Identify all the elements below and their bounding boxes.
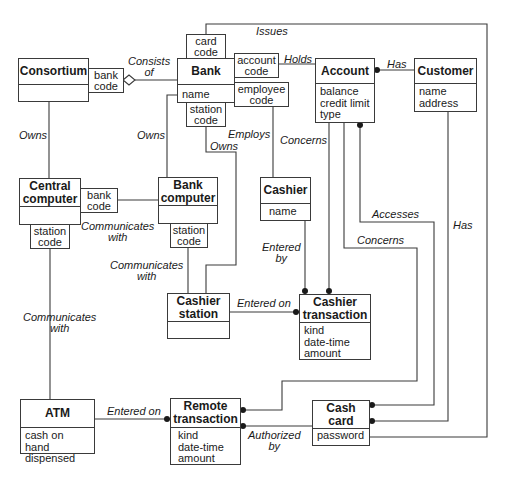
- class-cashier-station: Cashier station: [167, 293, 230, 339]
- class-central-computer: Central computer: [19, 178, 81, 225]
- class-customer: Customer name address: [414, 58, 477, 112]
- label-holds: Holds: [284, 54, 312, 65]
- has-card-line: [369, 111, 448, 421]
- class-bank: Bank name: [177, 58, 235, 103]
- owns-bank-computer-line: [167, 95, 177, 177]
- label-entered-on-atm: Entered on: [107, 406, 161, 417]
- label-issues: Issues: [256, 26, 288, 37]
- class-cashier-transaction: Cashier transaction kind date-time amoun…: [299, 294, 371, 360]
- qualifier-bank-station-code: station code: [186, 102, 226, 127]
- class-attributes: [168, 322, 229, 326]
- class-name: ATM: [21, 400, 94, 428]
- label-entered-on-station: Entered on: [237, 298, 291, 309]
- class-attributes: balance credit limit type: [316, 84, 374, 123]
- class-cashier: Cashier name: [260, 177, 311, 221]
- class-attributes: password: [313, 429, 369, 444]
- label-has-account: Has: [387, 59, 407, 70]
- qualifier-central-bank-code: bank code: [80, 188, 118, 213]
- label-accesses: Accesses: [372, 209, 419, 220]
- qualifier-bankcomputer-station-code: station code: [170, 223, 208, 248]
- class-attributes: name: [261, 204, 310, 220]
- label-communicates-central-bank: Communicates with: [81, 221, 154, 242]
- label-owns-bank-computer: Owns: [137, 130, 165, 141]
- class-attributes: kind date-time amount: [300, 323, 370, 362]
- class-name: Bank: [178, 59, 234, 85]
- label-entered-by: Entered by: [262, 242, 301, 263]
- class-account: Account balance credit limit type: [315, 58, 375, 123]
- qualifier-bank-employee-code: employee code: [234, 82, 289, 107]
- class-attributes: name: [178, 85, 234, 103]
- label-consists-of: Consists of: [128, 56, 170, 77]
- class-name: Cash card: [313, 401, 369, 429]
- class-attributes: [20, 207, 80, 211]
- qualifier-bank-card-code: card code: [186, 34, 226, 59]
- class-name: Cashier station: [168, 294, 229, 322]
- label-authorized-by: Authorized by: [248, 430, 301, 451]
- label-owns-station: Owns: [210, 141, 238, 152]
- class-bank-computer: Bank computer: [158, 177, 218, 224]
- qualifier-central-station-code: station code: [30, 224, 70, 249]
- class-name: Central computer: [20, 179, 80, 207]
- accesses-line: [360, 122, 434, 405]
- class-attributes: name address: [415, 84, 476, 111]
- label-has-card: Has: [453, 220, 473, 231]
- class-cash-card: Cash card password: [312, 400, 370, 446]
- class-remote-transaction: Remote transaction kind date-time amount: [170, 398, 241, 465]
- class-name: Account: [316, 59, 374, 84]
- qualifier-bank-account-code: account code: [234, 53, 279, 78]
- class-name: Customer: [415, 59, 476, 84]
- label-employs: Employs: [228, 129, 270, 140]
- class-name: Remote transaction: [171, 399, 240, 428]
- class-attributes: [19, 85, 88, 89]
- qualifier-consortium-bank-code: bank code: [88, 68, 124, 93]
- class-attributes: kind date-time amount: [171, 428, 240, 467]
- class-consortium: Consortium: [18, 58, 89, 102]
- label-concerns-remote-tx: Concerns: [357, 235, 404, 246]
- class-name: Bank computer: [159, 178, 217, 206]
- class-atm: ATM cash on hand dispensed: [20, 399, 95, 454]
- class-diagram: Consortium Bank name Account balance cre…: [0, 0, 505, 480]
- class-name: Consortium: [19, 59, 88, 85]
- class-attributes: [159, 206, 217, 210]
- label-communicates-central-atm: Communicates with: [23, 312, 96, 333]
- class-name: Cashier transaction: [300, 295, 370, 323]
- label-communicates-bank-station: Communicates with: [110, 260, 183, 281]
- class-name: Cashier: [261, 178, 310, 204]
- label-concerns-cashier-tx: Concerns: [280, 135, 327, 146]
- class-attributes: cash on hand dispensed: [21, 428, 94, 467]
- label-owns-central: Owns: [19, 130, 47, 141]
